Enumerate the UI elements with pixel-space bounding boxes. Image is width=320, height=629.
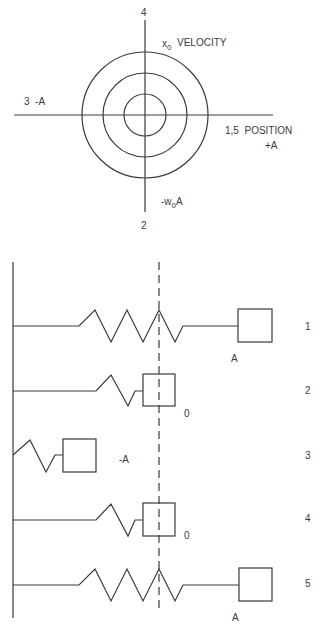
- label-velocity: VELOCITY: [177, 37, 227, 48]
- mass-label: A: [232, 612, 239, 623]
- state-index: 4: [305, 513, 311, 524]
- label-left: 3 -A: [24, 96, 45, 107]
- mass-block: [143, 503, 175, 536]
- spring-state-2: 0 2: [13, 374, 311, 419]
- spring-state-4: 0 4: [13, 503, 311, 541]
- mass-block: [143, 374, 175, 406]
- label-plus-a: +A: [265, 140, 278, 151]
- mass-label: 0: [184, 408, 190, 419]
- state-index: 2: [305, 385, 311, 396]
- label-bottom: 2: [141, 220, 147, 231]
- mass-label: -A: [119, 454, 129, 465]
- spring-state-5: A 5: [13, 568, 311, 623]
- label-position: 1,5 POSITION: [225, 125, 292, 136]
- spring-state-1: A 1: [13, 309, 311, 364]
- mass-block: [238, 309, 272, 342]
- mass-label: A: [231, 353, 238, 364]
- state-index: 1: [305, 321, 311, 332]
- spring: [13, 569, 239, 601]
- label-velocity-x: x0: [162, 38, 172, 52]
- state-index: 5: [305, 578, 311, 589]
- diagram-canvas: 4 2 3 -A x0 VELOCITY 1,5 POSITION +A -w0…: [0, 0, 320, 629]
- spring: [13, 375, 143, 406]
- spring: [13, 310, 238, 342]
- state-index: 3: [305, 450, 311, 461]
- label-minus-w0a: -w0A: [161, 196, 183, 210]
- spring-state-3: -A 3: [13, 439, 311, 472]
- label-top: 4: [141, 7, 147, 18]
- mass-block: [239, 568, 272, 601]
- spring: [13, 440, 63, 472]
- spring-mass-diagram: A 1 0 2 -A 3 0 4 A 5: [13, 262, 311, 623]
- spring: [13, 504, 143, 536]
- mass-label: 0: [184, 530, 190, 541]
- mass-block: [63, 439, 96, 472]
- phase-space-diagram: 4 2 3 -A x0 VELOCITY 1,5 POSITION +A -w0…: [14, 7, 292, 231]
